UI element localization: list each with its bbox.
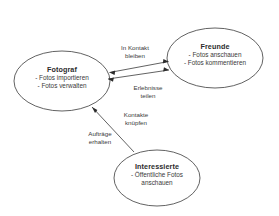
edge-label-erlebnisse-teilen: Erlebnisse teilen — [122, 84, 174, 100]
edge-label-in-kontakt-bleiben-line2: bleiben — [110, 52, 160, 60]
arrowhead-in-kontakt-bleiben-fotograf — [110, 70, 116, 75]
node-ellipse-interessierte[interactable] — [114, 150, 200, 206]
edge-label-erlebnisse-teilen-line2: teilen — [122, 92, 174, 100]
node-ellipse-fotograf[interactable] — [14, 51, 110, 111]
diagram-canvas: Fotograf - Fotos importieren - Fotos ver… — [0, 0, 279, 216]
edge-label-auftraege-erhalten-line1: Aufträge — [76, 130, 124, 138]
edge-label-in-kontakt-bleiben: In Kontakt bleiben — [110, 44, 160, 60]
edge-label-kontakte-knuepfen-line1: Kontakte — [112, 111, 160, 119]
edge-label-auftraege-erhalten-line2: erhalten — [76, 138, 124, 146]
edge-line-in-kontakt-bleiben[interactable] — [110, 62, 169, 73]
diagram-vector-layer — [0, 0, 279, 216]
edge-label-kontakte-knuepfen: Kontakte knüpfen — [112, 111, 160, 127]
edge-label-erlebnisse-teilen-line1: Erlebnisse — [122, 84, 174, 92]
edge-label-auftraege-erhalten: Aufträge erhalten — [76, 130, 124, 146]
arrowhead-erlebnisse-teilen-freunde — [163, 67, 169, 71]
edge-label-kontakte-knuepfen-line2: knüpfen — [112, 119, 160, 127]
node-ellipse-freunde[interactable] — [167, 28, 263, 88]
edge-label-in-kontakt-bleiben-line1: In Kontakt — [110, 44, 160, 52]
